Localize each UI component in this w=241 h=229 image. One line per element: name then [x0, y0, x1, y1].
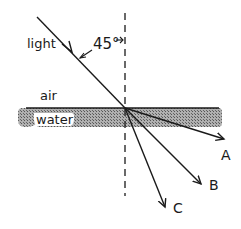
refraction-diagram: light 45° air water A B C — [0, 0, 241, 229]
water-label: water — [36, 112, 74, 127]
incident-arrow-icon — [62, 41, 72, 52]
ray-c-label: C — [173, 200, 183, 216]
air-label: air — [40, 88, 58, 103]
angle-arrow-left-icon — [80, 50, 92, 58]
ray-b-label: B — [209, 177, 219, 193]
angle-label: 45° — [93, 35, 120, 53]
ray-a-label: A — [221, 147, 231, 163]
light-label: light — [27, 36, 56, 51]
